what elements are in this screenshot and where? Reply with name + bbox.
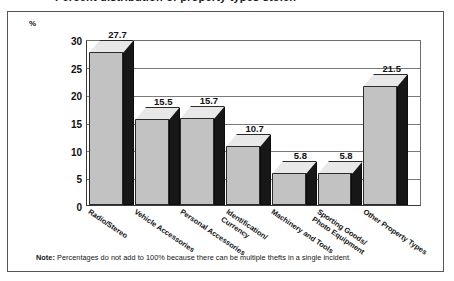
bar-front-face xyxy=(135,119,169,205)
chart-title-clipped: Percent distribution of property types s… xyxy=(0,0,454,10)
plot-wrapper: % 051015202530 27.715.515.710.75.85.821.… xyxy=(8,12,445,273)
category-label: Other Property Types xyxy=(361,208,428,257)
bar-side-face xyxy=(169,108,180,205)
bar: 5.8 xyxy=(318,162,363,205)
bar-value-label: 5.8 xyxy=(278,150,323,161)
bar-front-face xyxy=(89,52,123,205)
footnote-prefix: Note: xyxy=(36,253,55,262)
y-axis-tick-label: 25 xyxy=(71,63,82,74)
bar-front-face xyxy=(180,118,214,205)
bar: 27.7 xyxy=(89,41,134,205)
y-axis-tick-label: 30 xyxy=(71,36,82,47)
bar-series: 27.715.515.710.75.85.821.5 xyxy=(87,41,420,205)
bar-value-label: 27.7 xyxy=(95,29,140,40)
footnote-text: Percentages do not add to 100% because t… xyxy=(57,253,351,262)
category-label: Radio/Stereo xyxy=(87,208,130,241)
y-axis-tick-label: 15 xyxy=(71,119,82,130)
bar-value-label: 15.7 xyxy=(187,95,232,106)
y-axis-tick-label: 0 xyxy=(76,202,82,213)
bar-side-face xyxy=(123,41,134,205)
plot-area: 051015202530 27.715.515.710.75.85.821.5 xyxy=(86,40,421,206)
bar-front-face xyxy=(363,86,397,205)
bar: 15.7 xyxy=(180,107,225,205)
chart-frame: % 051015202530 27.715.515.710.75.85.821.… xyxy=(7,11,444,272)
chart-page: Percent distribution of property types s… xyxy=(0,0,454,281)
y-axis-unit-label: % xyxy=(29,19,36,28)
chart-title: Percent distribution of property types s… xyxy=(55,0,296,3)
bar-side-face xyxy=(397,75,408,205)
bar-front-face xyxy=(272,173,306,205)
y-axis-tick-label: 20 xyxy=(71,91,82,102)
bar-front-face xyxy=(318,173,352,205)
bar-side-face xyxy=(260,135,271,205)
y-axis-tick-label: 5 xyxy=(76,174,82,185)
bar-side-face xyxy=(214,107,225,205)
chart-footnote: Note: Percentages do not add to 100% bec… xyxy=(36,253,351,262)
y-axis-tick-label: 10 xyxy=(71,146,82,157)
bar: 21.5 xyxy=(363,75,408,205)
bar-value-label: 5.8 xyxy=(324,150,369,161)
bar: 10.7 xyxy=(226,135,271,205)
bar-value-label: 21.5 xyxy=(369,63,414,74)
category-label-line: Radio/Stereo xyxy=(87,208,130,241)
bar: 5.8 xyxy=(272,162,317,205)
bar: 15.5 xyxy=(135,108,180,205)
bar-value-label: 15.5 xyxy=(141,96,186,107)
bar-front-face xyxy=(226,146,260,205)
bar-value-label: 10.7 xyxy=(232,123,277,134)
category-label-line: Other Property Types xyxy=(361,208,428,257)
